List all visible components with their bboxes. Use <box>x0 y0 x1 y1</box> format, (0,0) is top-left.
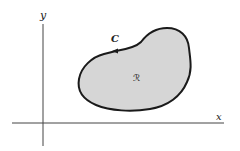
region-label: ℛ <box>133 74 140 83</box>
x-axis-label: x <box>216 112 222 122</box>
region-r <box>79 28 191 111</box>
curve-label: C <box>111 34 119 44</box>
y-axis-label: y <box>40 10 46 21</box>
diagram-canvas <box>0 0 240 151</box>
